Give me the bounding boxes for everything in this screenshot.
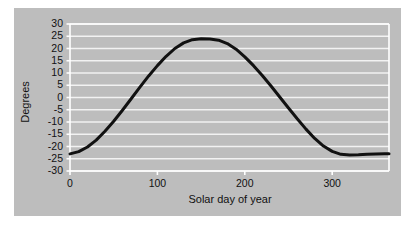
y-tick-label: -25	[33, 152, 63, 164]
y-tick-label: 10	[33, 66, 63, 78]
y-axis-title: Degrees	[19, 66, 31, 138]
y-tick-label: 15	[33, 54, 63, 66]
tick-marks-group	[67, 24, 333, 175]
y-tick-label: -30	[33, 164, 63, 176]
y-axis-title-wrapper: Degrees	[14, 58, 34, 158]
y-tick-label: 30	[33, 17, 63, 29]
y-tick-label: -10	[33, 115, 63, 127]
y-tick-label: 25	[33, 29, 63, 41]
y-tick-label: 0	[33, 91, 63, 103]
y-tick-label: 5	[33, 78, 63, 90]
chart-figure: 302520151050-5-10-15-20-25-30 0100200300…	[0, 0, 412, 230]
x-tick-label: 0	[50, 177, 90, 189]
y-tick-label: 20	[33, 42, 63, 54]
y-tick-label: -5	[33, 103, 63, 115]
x-axis-title: Solar day of year	[70, 193, 390, 205]
y-tick-label: -20	[33, 140, 63, 152]
x-tick-label: 300	[312, 177, 352, 189]
x-tick-label: 200	[225, 177, 265, 189]
x-tick-label: 100	[137, 177, 177, 189]
y-tick-label: -15	[33, 127, 63, 139]
